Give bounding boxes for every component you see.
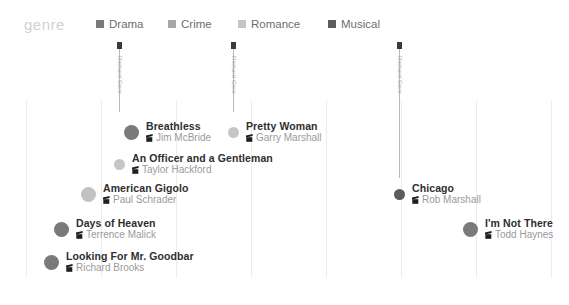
- film-director-name: Rob Marshall: [422, 194, 481, 206]
- film-director-row: Richard Brooks: [66, 262, 194, 274]
- stem-cap-icon: [397, 42, 402, 49]
- film-point[interactable]: American GigoloPaul Schrader: [81, 182, 189, 206]
- film-genre-dot[interactable]: [228, 127, 239, 138]
- clapperboard-icon: [132, 166, 139, 174]
- film-point[interactable]: An Officer and a GentlemanTaylor Hackfor…: [114, 152, 273, 176]
- clapperboard-icon: [485, 231, 492, 239]
- legend-item-label: Romance: [251, 18, 300, 30]
- film-point[interactable]: BreathlessJim McBride: [124, 120, 211, 144]
- plot-area: Richard GereRichard GereRichard Gere Bre…: [0, 40, 569, 278]
- film-text-block: Days of HeavenTerrence Malick: [76, 217, 156, 241]
- film-text-block: I'm Not ThereTodd Haynes: [485, 217, 553, 241]
- film-director-row: Jim McBride: [146, 132, 211, 144]
- film-director-row: Terrence Malick: [76, 229, 156, 241]
- film-point[interactable]: I'm Not ThereTodd Haynes: [463, 217, 553, 241]
- legend-item-drama[interactable]: Drama: [96, 18, 144, 30]
- film-title: Looking For Mr. Goodbar: [66, 250, 194, 262]
- film-director-row: Todd Haynes: [485, 229, 553, 241]
- stem-label: Richard Gere: [397, 56, 403, 94]
- film-genre-dot[interactable]: [114, 159, 125, 170]
- film-director-name: Todd Haynes: [495, 229, 553, 241]
- gridline: [551, 100, 552, 278]
- film-title: Chicago: [412, 182, 481, 194]
- stem-cap-icon: [231, 42, 236, 49]
- film-director-row: Garry Marshall: [246, 132, 322, 144]
- stem-label: Richard Gere: [117, 56, 123, 94]
- legend-item-label: Musical: [341, 18, 380, 30]
- legend-item-musical[interactable]: Musical: [328, 18, 380, 30]
- film-director-row: Paul Schrader: [103, 194, 189, 206]
- legend-item-label: Drama: [109, 18, 144, 30]
- film-text-block: Looking For Mr. GoodbarRichard Brooks: [66, 250, 194, 274]
- film-genre-dot[interactable]: [124, 125, 139, 140]
- film-title: Days of Heaven: [76, 217, 156, 229]
- legend-swatch-icon: [238, 20, 246, 28]
- stem-cap-icon: [117, 42, 122, 49]
- film-title: Pretty Woman: [246, 120, 322, 132]
- film-director-name: Paul Schrader: [113, 194, 176, 206]
- film-director-name: Jim McBride: [156, 132, 211, 144]
- film-director-row: Taylor Hackford: [132, 164, 273, 176]
- film-title: An Officer and a Gentleman: [132, 152, 273, 164]
- film-director-name: Richard Brooks: [76, 262, 144, 274]
- stem-label: Richard Gere: [231, 56, 237, 94]
- film-text-block: American GigoloPaul Schrader: [103, 182, 189, 206]
- clapperboard-icon: [66, 264, 73, 272]
- film-director-name: Terrence Malick: [86, 229, 156, 241]
- gridline: [26, 100, 27, 278]
- film-timeline-chart: genre DramaCrimeRomanceMusical Richard G…: [0, 0, 569, 305]
- legend-swatch-icon: [96, 20, 104, 28]
- film-point[interactable]: Looking For Mr. GoodbarRichard Brooks: [44, 250, 194, 274]
- legend-title: genre: [24, 16, 65, 33]
- film-director-row: Rob Marshall: [412, 194, 481, 206]
- legend-swatch-icon: [168, 20, 176, 28]
- film-genre-dot[interactable]: [44, 255, 59, 270]
- film-genre-dot[interactable]: [394, 189, 405, 200]
- legend-item-romance[interactable]: Romance: [238, 18, 300, 30]
- film-title: American Gigolo: [103, 182, 189, 194]
- film-director-name: Taylor Hackford: [142, 164, 211, 176]
- film-text-block: An Officer and a GentlemanTaylor Hackfor…: [132, 152, 273, 176]
- clapperboard-icon: [412, 196, 419, 204]
- film-text-block: ChicagoRob Marshall: [412, 182, 481, 206]
- film-director-name: Garry Marshall: [256, 132, 322, 144]
- clapperboard-icon: [146, 134, 153, 142]
- legend-swatch-icon: [328, 20, 336, 28]
- film-point[interactable]: Pretty WomanGarry Marshall: [228, 120, 322, 144]
- legend: genre DramaCrimeRomanceMusical: [0, 0, 569, 40]
- legend-item-crime[interactable]: Crime: [168, 18, 212, 30]
- film-title: I'm Not There: [485, 217, 553, 229]
- film-text-block: Pretty WomanGarry Marshall: [246, 120, 322, 144]
- film-genre-dot[interactable]: [81, 187, 96, 202]
- clapperboard-icon: [246, 134, 253, 142]
- film-genre-dot[interactable]: [54, 222, 69, 237]
- film-genre-dot[interactable]: [463, 222, 478, 237]
- clapperboard-icon: [76, 231, 83, 239]
- gridline: [326, 100, 327, 278]
- film-point[interactable]: Days of HeavenTerrence Malick: [54, 217, 156, 241]
- film-point[interactable]: ChicagoRob Marshall: [394, 182, 481, 206]
- clapperboard-icon: [103, 196, 110, 204]
- film-title: Breathless: [146, 120, 211, 132]
- film-text-block: BreathlessJim McBride: [146, 120, 211, 144]
- legend-item-label: Crime: [181, 18, 212, 30]
